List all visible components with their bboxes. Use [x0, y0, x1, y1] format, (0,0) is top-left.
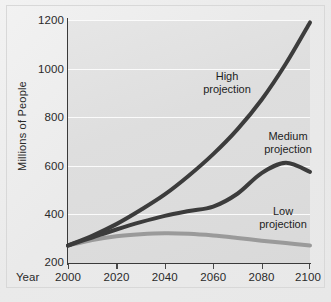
x-tick-label-2100: 2100: [285, 271, 331, 283]
x-tick-label-2080: 2080: [239, 271, 285, 283]
x-tick-label-2000: 2000: [45, 271, 91, 283]
x-tick-2100: [309, 264, 310, 269]
x-axis-line: [67, 263, 311, 264]
annotation-low-projection: Low projection: [252, 205, 314, 230]
chart-figure: 1200 1000 800 600 400 200 2000 2020 2040…: [0, 0, 331, 302]
y-tick-label-800: 800: [24, 111, 64, 123]
annotation-high-projection: High projection: [196, 70, 258, 95]
annotation-medium-line2: projection: [252, 143, 324, 156]
annotation-low-line1: Low: [252, 205, 314, 218]
x-axis-title: Year: [16, 271, 39, 283]
x-tick-label-2020: 2020: [93, 271, 139, 283]
annotation-high-line1: High: [196, 70, 258, 83]
x-tick-2040: [165, 264, 166, 269]
y-tick-label-1000: 1000: [24, 63, 64, 75]
x-tick-label-2060: 2060: [190, 271, 236, 283]
annotation-medium-line1: Medium: [252, 130, 324, 143]
annotation-low-line2: projection: [252, 218, 314, 231]
x-tick-2060: [213, 264, 214, 269]
y-axis-line: [67, 18, 68, 265]
x-tick-2000: [68, 264, 69, 269]
y-tick-label-600: 600: [24, 160, 64, 172]
y-axis-title: Millions of People: [16, 66, 28, 186]
y-tick-label-1200: 1200: [24, 14, 64, 26]
annotation-high-line2: projection: [196, 83, 258, 96]
y-tick-label-200: 200: [24, 256, 64, 268]
x-tick-2080: [262, 264, 263, 269]
annotation-medium-projection: Medium projection: [252, 130, 324, 155]
x-tick-2020: [116, 264, 117, 269]
x-tick-label-2040: 2040: [142, 271, 188, 283]
y-tick-label-400: 400: [24, 208, 64, 220]
